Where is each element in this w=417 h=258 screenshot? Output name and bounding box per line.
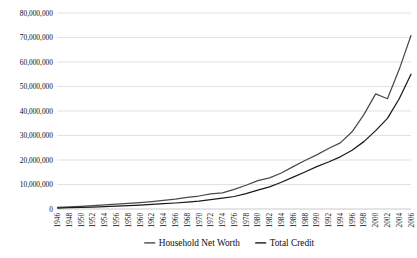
- y-axis-tick-label: 60,000,000: [20, 58, 54, 67]
- y-axis-tick-label: 10,000,000: [20, 180, 54, 189]
- x-axis-tick-label: 1948: [66, 213, 74, 228]
- x-axis-tick-label: 1962: [148, 213, 156, 228]
- x-axis-tick-label: 1950: [78, 213, 86, 228]
- x-axis-tick-label: 1968: [184, 213, 192, 228]
- y-axis-tick-label: 40,000,000: [20, 107, 54, 116]
- x-axis-tick-label: 1976: [231, 213, 239, 228]
- y-axis-tick-label: 80,000,000: [20, 9, 54, 18]
- x-axis-tick-label: 1980: [254, 213, 262, 228]
- x-axis-tick-label: 1984: [278, 213, 286, 228]
- x-axis-tick-label: 1952: [89, 213, 97, 228]
- x-axis-tick-label: 2000: [372, 213, 380, 228]
- x-axis-tick-label: 1998: [360, 213, 368, 228]
- x-axis-tick-label: 2006: [408, 213, 416, 228]
- x-axis-tick-label: 1946: [54, 213, 62, 228]
- x-axis-tick-label: 1974: [219, 213, 227, 228]
- gridlines: [58, 13, 412, 209]
- x-axis-tick-label: 1986: [290, 213, 298, 228]
- y-axis-tick-labels: 010,000,00020,000,00030,000,00040,000,00…: [20, 9, 54, 214]
- line-chart: 010,000,00020,000,00030,000,00040,000,00…: [0, 0, 417, 258]
- x-axis-tick-label: 1996: [349, 213, 357, 228]
- series-line: [58, 74, 412, 208]
- x-axis-tick-label: 1978: [243, 213, 251, 228]
- x-axis-tick-label: 1960: [137, 213, 145, 228]
- x-axis-tick-label: 1982: [266, 213, 274, 228]
- y-axis-tick-label: 70,000,000: [20, 33, 54, 42]
- x-axis-tick-label: 1956: [113, 213, 121, 228]
- x-axis-tick-labels: 1946194819501952195419561958196019621964…: [54, 213, 416, 228]
- y-axis-tick-label: 0: [49, 205, 53, 214]
- x-axis-tick-label: 1970: [196, 213, 204, 228]
- x-axis-tick-label: 2002: [384, 213, 392, 228]
- y-axis-tick-label: 50,000,000: [20, 82, 54, 91]
- x-axis-tick-label: 1988: [302, 213, 310, 228]
- x-axis-tick-label: 1954: [101, 213, 109, 228]
- y-axis-tick-label: 30,000,000: [20, 131, 54, 140]
- x-axis-tick-label: 1990: [313, 213, 321, 228]
- chart-container: 010,000,00020,000,00030,000,00040,000,00…: [0, 0, 417, 258]
- series-layer: [58, 36, 412, 208]
- legend-label: Total Credit: [270, 238, 315, 248]
- x-axis-tick-label: 1994: [337, 213, 345, 228]
- chart-legend: Household Net WorthTotal Credit: [144, 238, 314, 248]
- x-axis-tick-label: 1966: [172, 213, 180, 228]
- series-line: [58, 36, 412, 208]
- x-axis-tick-label: 2004: [396, 213, 404, 228]
- legend-label: Household Net Worth: [159, 238, 241, 248]
- x-axis-tick-label: 1972: [207, 213, 215, 228]
- y-axis-tick-label: 20,000,000: [20, 156, 54, 165]
- x-axis-tick-label: 1964: [160, 213, 168, 228]
- x-axis-tick-label: 1958: [125, 213, 133, 228]
- x-axis-tick-label: 1992: [325, 213, 333, 228]
